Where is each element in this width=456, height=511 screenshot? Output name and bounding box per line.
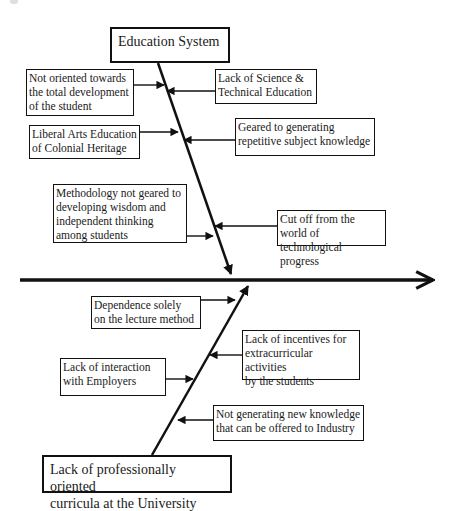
education-system-cause-box-2: Lack of Science & Technical Education [215,69,317,104]
education-system-cause-box-3: Liberal Arts Education of Colonial Herit… [29,125,140,159]
education-system-cause-box-4: Geared to generating repetitive subject … [235,118,375,156]
education-system-cause-box-5: Methodology not geared to developing wis… [53,184,187,243]
professional-curricula-cause-box-2: Lack of incentives for extracurricular a… [242,330,360,380]
education-system-cause-box-6: Cut off from the world of technological … [277,210,386,246]
professional-curricula-cause-box-3: Lack of interaction with Employers [60,358,166,396]
education-system-category-box: Education System [110,27,230,63]
professional-curricula-cause-box-1: Dependence solely on the lecture method [91,296,201,329]
professional-curricula-category-box: Lack of professionally oriented curricul… [42,455,232,493]
professional-curricula-cause-box-4: Not generating new knowledge that can be… [213,405,364,441]
education-system-cause-box-1: Not oriented towards the total developme… [26,69,134,116]
